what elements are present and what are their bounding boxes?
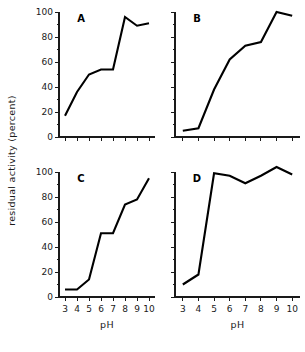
x-tick-label: 9 <box>134 304 140 314</box>
y-tick-label: 40 <box>42 82 54 92</box>
x-axis-title: pH <box>231 319 245 330</box>
panel-a: 020406080100A <box>22 0 160 160</box>
x-tick-label: 4 <box>196 304 202 314</box>
panel-b: B <box>160 0 305 160</box>
panel-letter: D <box>193 173 201 184</box>
data-series-line <box>183 167 292 285</box>
panel-c: 020406080100345678910pHC <box>22 160 160 352</box>
panel-letter: C <box>77 173 84 184</box>
x-tick-label: 5 <box>211 304 217 314</box>
x-tick-label: 5 <box>86 304 92 314</box>
x-tick-label: 7 <box>242 304 248 314</box>
y-tick-label: 20 <box>42 107 54 117</box>
x-tick-label: 10 <box>143 304 155 314</box>
panel-b-plot: B <box>160 0 305 160</box>
panel-letter: B <box>193 13 201 24</box>
x-axis-title: pH <box>100 319 114 330</box>
y-tick-label: 0 <box>47 132 53 142</box>
y-axis-title-text: residual activity (percent) <box>6 95 17 226</box>
x-tick-label: 8 <box>258 304 264 314</box>
x-tick-label: 6 <box>98 304 104 314</box>
panel-letter: A <box>77 13 85 24</box>
x-tick-label: 8 <box>122 304 128 314</box>
panel-d: 345678910pHD <box>160 160 305 352</box>
y-tick-label: 60 <box>42 57 54 67</box>
y-axis-title: residual activity (percent) <box>0 0 22 320</box>
x-tick-label: 7 <box>110 304 116 314</box>
data-series-line <box>65 17 149 116</box>
x-tick-label: 9 <box>274 304 280 314</box>
y-tick-label: 80 <box>42 32 54 42</box>
data-series-line <box>65 178 149 289</box>
x-tick-label: 3 <box>180 304 186 314</box>
panel-d-plot: 345678910pHD <box>160 160 305 352</box>
panel-c-plot: 020406080100345678910pHC <box>22 160 160 352</box>
y-tick-label: 80 <box>42 192 54 202</box>
x-tick-label: 3 <box>62 304 68 314</box>
y-tick-label: 60 <box>42 217 54 227</box>
data-series-line <box>183 12 292 131</box>
x-tick-label: 6 <box>227 304 233 314</box>
y-tick-label: 100 <box>36 167 53 177</box>
y-tick-label: 0 <box>47 292 53 302</box>
panel-a-plot: 020406080100A <box>22 0 160 160</box>
y-tick-label: 40 <box>42 242 54 252</box>
x-tick-label: 4 <box>74 304 80 314</box>
x-tick-label: 10 <box>286 304 298 314</box>
y-tick-label: 20 <box>42 267 54 277</box>
y-tick-label: 100 <box>36 7 53 17</box>
figure-four-panel-ph-activity: residual activity (percent) 020406080100… <box>0 0 305 352</box>
